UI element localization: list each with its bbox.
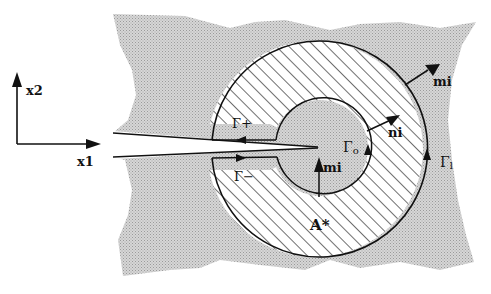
gamma-plus-label: Γ+: [232, 116, 252, 131]
m-inner-label: mi: [323, 160, 342, 175]
hatched-region: [0, 0, 491, 294]
x2-label: x2: [26, 83, 43, 98]
j-integral-diagram: x2 x1 Γ+ Γ− Γo Γl ni mi mi A*: [0, 0, 491, 294]
gamma-minus-label: Γ−: [234, 169, 254, 184]
m-outer-label: mi: [433, 74, 452, 89]
area-label: A*: [309, 216, 330, 234]
x1-label: x1: [77, 154, 94, 169]
n-inner-label: ni: [388, 125, 402, 140]
